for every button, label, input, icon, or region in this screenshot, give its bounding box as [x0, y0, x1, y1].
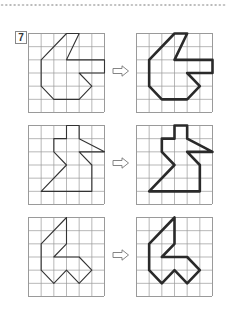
problem-number: 7 — [15, 31, 27, 44]
traced-shape — [149, 34, 212, 100]
source-shape — [41, 34, 104, 100]
source-grid-3 — [28, 217, 105, 297]
right-arrow-icon — [112, 249, 130, 261]
answer-grid-2 — [136, 125, 213, 205]
right-arrow-icon — [112, 157, 130, 169]
right-arrow-icon — [112, 65, 130, 77]
traced-shape — [149, 126, 212, 192]
dotted-separator — [0, 4, 227, 6]
source-grid-2 — [28, 125, 105, 205]
answer-grid-1 — [136, 33, 213, 113]
source-shape — [41, 126, 104, 192]
source-grid-1 — [28, 33, 105, 113]
answer-grid-3 — [136, 217, 213, 297]
